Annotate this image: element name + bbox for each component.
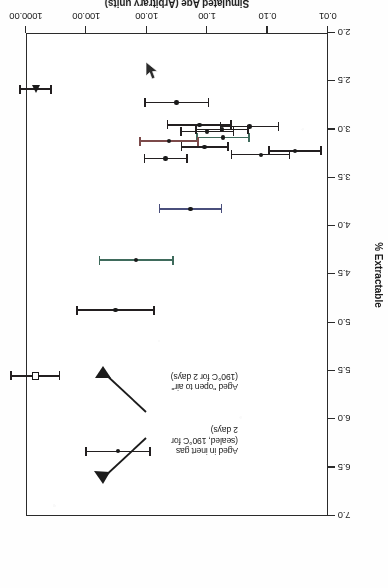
- filled-triangle-marker: [32, 85, 40, 93]
- x-tick-2: [206, 26, 207, 33]
- error-bar-cap-lower: [186, 154, 188, 163]
- y-tick-9: [328, 466, 335, 467]
- x-tick-label-1: 0.10: [259, 11, 277, 22]
- open-square-marker: [32, 372, 40, 380]
- scanned-figure-stage: 0.010.101.0010.00100.001000.00 2.02.53.0…: [0, 0, 388, 588]
- y-tick-2: [328, 128, 335, 129]
- error-bar-cap-upper: [181, 143, 183, 152]
- error-bar-cap-lower: [289, 150, 291, 159]
- y-tick-label-1: 2.5: [338, 76, 364, 87]
- y-tick-5: [328, 273, 335, 274]
- y-tick-label-8: 6.0: [338, 414, 364, 425]
- error-bar-cap-upper: [10, 371, 12, 380]
- y-tick-7: [328, 370, 335, 371]
- error-bar-cap-lower: [153, 306, 155, 315]
- y-tick-label-0: 2.0: [338, 28, 364, 39]
- error-bar-cap-upper: [144, 154, 146, 163]
- error-bar-cap-upper: [144, 98, 146, 107]
- y-tick-0: [328, 32, 335, 33]
- error-bar-cap-lower: [278, 122, 280, 131]
- error-bar-cap-lower: [221, 204, 223, 213]
- y-tick-label-9: 6.5: [338, 462, 364, 473]
- x-tick-label-3: 10.00: [135, 11, 158, 22]
- mouse-cursor-icon: [146, 62, 160, 81]
- inert-gas-annotation: Aged in inert gas (sealed, 190°C for 2 d…: [171, 425, 238, 456]
- y-tick-3: [328, 177, 335, 178]
- error-bar-cap-upper: [195, 125, 197, 134]
- y-tick-label-2: 3.0: [338, 124, 364, 135]
- x-tick-1: [266, 26, 267, 33]
- error-bar-cap-upper: [139, 137, 141, 146]
- error-bar-cap-lower: [248, 133, 250, 142]
- y-tick-4: [328, 225, 335, 226]
- x-tick-label-4: 100.00: [72, 11, 100, 22]
- filled-circle-marker: [259, 153, 263, 157]
- error-bar-cap-lower: [320, 146, 322, 155]
- y-tick-8: [328, 418, 335, 419]
- y-tick-label-4: 4.0: [338, 221, 364, 232]
- filled-circle-marker: [188, 207, 192, 211]
- error-bar-cap-lower: [227, 143, 229, 152]
- x-tick-label-0: 0.01: [319, 11, 337, 22]
- x-axis-title: Simulated Age (Arbitrary units): [26, 0, 328, 9]
- y-tick-label-6: 5.0: [338, 317, 364, 328]
- error-bar-cap-upper: [85, 447, 87, 456]
- error-bar-cap-lower: [197, 137, 199, 146]
- error-bar-cap-lower: [172, 256, 174, 265]
- open-to-air-arrow: [90, 362, 150, 416]
- filled-circle-marker: [221, 135, 225, 139]
- open-to-air-annotation: Aged "open to air" (190°C for 2 days): [171, 371, 238, 392]
- error-bar-cap-upper: [180, 127, 182, 136]
- filled-circle-marker: [163, 156, 167, 160]
- chart-figure: 0.010.101.0010.00100.001000.00 2.02.53.0…: [0, 0, 388, 588]
- inert-gas-arrow: [90, 434, 150, 488]
- x-tick-label-2: 1.00: [198, 11, 216, 22]
- error-bar-cap-lower: [59, 371, 61, 380]
- error-bar-cap-lower: [230, 120, 232, 129]
- x-tick-3: [146, 26, 147, 33]
- y-tick-label-3: 3.5: [338, 172, 364, 183]
- error-bar-cap-lower: [208, 98, 210, 107]
- error-bar-cap-lower: [233, 127, 235, 136]
- y-tick-10: [328, 515, 335, 516]
- filled-circle-marker: [175, 100, 179, 104]
- x-tick-label-5: 1000.00: [10, 11, 43, 22]
- y-axis-title: % Extractable: [373, 242, 384, 308]
- error-bar-cap-lower: [50, 85, 52, 94]
- filled-circle-marker: [197, 123, 201, 127]
- y-tick-1: [328, 80, 335, 81]
- error-bar-cap-upper: [231, 150, 233, 159]
- error-bar-cap-upper: [167, 120, 169, 129]
- y-tick-label-10: 7.0: [338, 511, 364, 522]
- y-tick-label-7: 5.5: [338, 366, 364, 377]
- error-bar-cap-upper: [159, 204, 161, 213]
- y-tick-6: [328, 322, 335, 323]
- y-tick-label-5: 4.5: [338, 269, 364, 280]
- error-bar-cap-upper: [76, 306, 78, 315]
- filled-circle-marker: [203, 145, 207, 149]
- x-tick-5: [25, 26, 26, 33]
- x-tick-4: [85, 26, 86, 33]
- error-bar-cap-upper: [19, 85, 21, 94]
- error-bar-cap-lower: [247, 125, 249, 134]
- error-bar-cap-upper: [99, 256, 101, 265]
